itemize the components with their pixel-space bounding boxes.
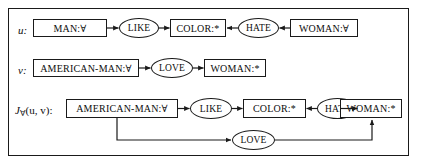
join-concept-color-label: COLOR:* <box>253 103 296 114</box>
u-concept-color-label: COLOR:* <box>176 23 219 34</box>
conceptual-graph-figure: u: MAN:∀ LIKE COLOR:* HATE WOMAN:∀ v: AM… <box>0 0 421 167</box>
v-relation-love: LOVE <box>151 58 193 78</box>
join-concept-american-man-label: AMERICAN-MAN:∀ <box>76 103 168 114</box>
u-concept-color: COLOR:* <box>170 19 226 37</box>
join-relation-love-loop: LOVE <box>232 130 275 150</box>
v-concept-woman: WOMAN:* <box>204 59 266 77</box>
u-relation-hate-label: HATE <box>246 23 271 33</box>
join-relation-like-label: LIKE <box>200 104 222 114</box>
row-label-u: u: <box>18 25 27 36</box>
row-label-join-tail: (u, v): <box>26 104 53 116</box>
u-concept-man-label: MAN:∀ <box>53 23 86 34</box>
join-concept-american-man: AMERICAN-MAN:∀ <box>66 99 178 118</box>
v-relation-love-label: LOVE <box>159 63 185 73</box>
join-relation-love-loop-label: LOVE <box>240 135 266 145</box>
join-concept-color: COLOR:* <box>243 99 306 118</box>
row-label-v: v: <box>18 65 27 76</box>
row-label-u-text: u: <box>18 24 27 36</box>
join-relation-like: LIKE <box>190 98 232 119</box>
join-concept-woman: WOMAN:* <box>340 99 402 118</box>
u-concept-woman: WOMAN:∀ <box>290 19 358 37</box>
u-relation-like: LIKE <box>119 18 159 38</box>
row-label-v-text: v: <box>18 64 27 76</box>
u-relation-like-label: LIKE <box>128 23 150 33</box>
row-label-join: J∀(u, v): <box>15 105 52 118</box>
u-relation-hate: HATE <box>238 18 279 38</box>
u-concept-woman-label: WOMAN:∀ <box>299 23 349 34</box>
v-concept-american-man-label: AMERICAN-MAN:∀ <box>40 63 132 74</box>
v-concept-american-man: AMERICAN-MAN:∀ <box>33 59 139 77</box>
join-concept-woman-label: WOMAN:* <box>346 103 395 114</box>
v-concept-woman-label: WOMAN:* <box>210 63 259 74</box>
u-concept-man: MAN:∀ <box>33 19 107 37</box>
